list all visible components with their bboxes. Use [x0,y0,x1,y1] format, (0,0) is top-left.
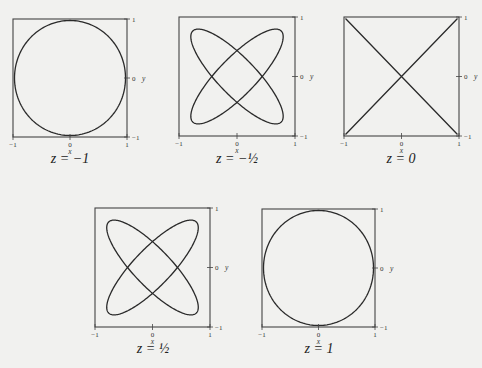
y-axis-label: y [224,263,229,272]
x-tick-label: 1 [125,141,129,149]
caption-p1: z = −1 [10,151,130,167]
y-axis-label: y [309,72,314,81]
x-tick-label: −1 [175,140,183,148]
caption-p5: z = 1 [259,341,379,357]
x-tick-label: 1 [373,331,377,339]
y-tick-label: 0 [464,73,468,81]
y-tick-label: 1 [300,14,304,22]
y-tick-label: −1 [380,324,388,332]
plot-panel-p1: −101x10−1y [9,16,146,157]
y-tick-label: 0 [380,265,384,273]
figure-canvas: −101x10−1y−101x10−1y−101x10−1y−101x10−1y… [0,0,482,368]
plot-panel-p5: −101x10−1y [258,206,394,347]
y-tick-label: −1 [215,324,223,332]
y-tick-label: −1 [300,133,308,141]
y-tick-label: 1 [215,205,219,213]
x-tick-label: −1 [258,331,266,339]
plot-panel-p4: −101x10−1y [91,205,229,347]
x-tick-label: −1 [9,141,17,149]
x-tick-label: −1 [340,140,348,148]
plot-panel-p3: −101x10−1y [340,14,478,156]
caption-p3: z = 0 [341,151,461,167]
x-tick-label: 1 [457,140,461,148]
caption-p4: z = ½ [93,341,213,357]
x-tick-label: 1 [293,140,297,148]
y-tick-label: 0 [300,73,304,81]
x-tick-label: −1 [91,331,99,339]
y-tick-label: −1 [132,134,140,142]
y-axis-label: y [389,264,394,273]
y-tick-label: 1 [464,14,468,22]
plot-panel-p2: −101x10−1y [175,14,314,156]
y-tick-label: 1 [132,16,136,24]
y-tick-label: 0 [215,264,219,272]
y-axis-label: y [473,72,478,81]
caption-p2: z = −½ [177,151,297,167]
y-tick-label: 0 [132,75,136,83]
y-tick-label: −1 [464,133,472,141]
x-tick-label: 1 [208,331,212,339]
y-axis-label: y [141,74,146,83]
y-tick-label: 1 [380,206,384,214]
